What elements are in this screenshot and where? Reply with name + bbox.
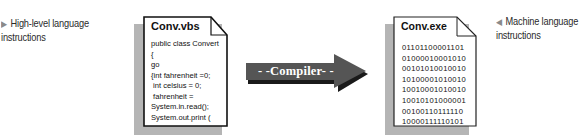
binary-line: 10010101000001 xyxy=(402,96,466,107)
code-line: {int fahrenheit =0; xyxy=(151,71,219,82)
output-file-title: Conv.exe xyxy=(401,20,447,32)
compiler-label: - -Compiler- - xyxy=(258,64,334,79)
high-level-caption: ▶High-level language instructions xyxy=(1,17,115,44)
code-line: System.in.read(); xyxy=(151,102,219,113)
code-line: { xyxy=(151,50,219,61)
binary-lines: 0110110000110101000010001010001010100100… xyxy=(402,43,466,128)
triangle-left-icon: ◀ xyxy=(496,16,502,29)
machine-language-caption-text: Machine language instructions xyxy=(496,15,578,41)
binary-line: 00100110111110 xyxy=(402,107,466,118)
source-code-lines: public class Convert{go{int fahrenheit =… xyxy=(151,39,219,123)
binary-line: 10010001010010 xyxy=(402,85,466,96)
code-line: int celsius = 0; xyxy=(151,81,219,92)
source-file-title: Conv.vbs xyxy=(151,20,200,32)
binary-line: 01101100001101 xyxy=(402,43,466,54)
high-level-caption-text: High-level language instructions xyxy=(1,17,89,43)
binary-line: 10100001010010 xyxy=(402,75,466,86)
binary-line: 01000010001010 xyxy=(402,54,466,65)
code-line: go xyxy=(151,60,219,71)
binary-line: 00101010010010 xyxy=(402,64,466,75)
machine-language-caption: ◀Machine language instructions xyxy=(496,15,588,42)
binary-line: 10000111110101 xyxy=(402,117,466,128)
code-line: System.out.print ( xyxy=(151,113,219,124)
output-file-document: Conv.exe 0110110000110101000010001010001… xyxy=(385,16,485,136)
source-file-document: Conv.vbs public class Convert{go{int fah… xyxy=(134,16,234,136)
triangle-right-icon: ▶ xyxy=(1,18,7,31)
code-line: public class Convert xyxy=(151,39,219,50)
code-line: fahrenheit = xyxy=(151,92,219,103)
